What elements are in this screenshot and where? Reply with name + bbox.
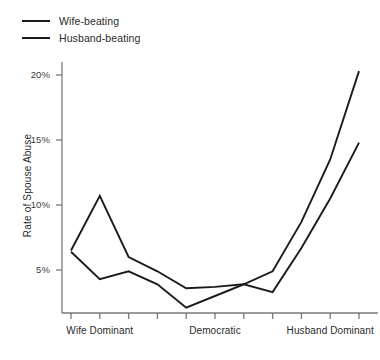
y-axis-tick-label: 15% <box>16 134 50 145</box>
data-series-group <box>71 71 359 308</box>
chart-figure: Wife-beating Husband-beating Rate of Spo… <box>0 0 380 360</box>
y-axis-tick-label: 5% <box>16 264 50 275</box>
x-axis-tick-label: Democratic <box>155 325 275 336</box>
y-axis-tick-label: 10% <box>16 199 50 210</box>
series-line-wife-beating <box>71 71 359 288</box>
axes <box>56 62 378 319</box>
y-axis-tick-label: 20% <box>16 69 50 80</box>
x-axis-tick-label: Husband Dominant <box>270 325 380 336</box>
x-axis-tick-label: Wife Dominant <box>40 325 160 336</box>
plot-area <box>0 0 380 360</box>
